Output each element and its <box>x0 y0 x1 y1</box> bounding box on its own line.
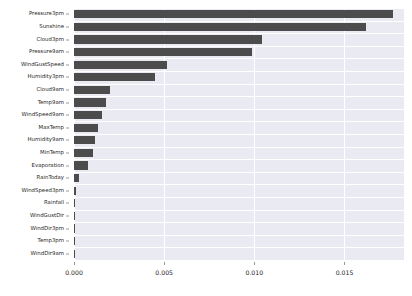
x-axis-label-0.005: 0.005 <box>155 269 173 276</box>
bar-WindSpeed9am <box>74 111 102 119</box>
bar-RainToday <box>74 174 79 182</box>
y-axis-label-MaxTemp: MaxTemp <box>38 125 64 130</box>
y-axis-tick-13 <box>66 178 69 179</box>
gridline-horizontal-20 <box>74 260 404 261</box>
x-axis-label-0.000: 0.000 <box>65 269 83 276</box>
y-axis-label-Cloud9am: Cloud9am <box>37 87 64 92</box>
x-axis-tick-0 <box>74 262 75 265</box>
y-axis-label-Sunshine: Sunshine <box>39 24 64 29</box>
y-axis-label-Cloud3pm: Cloud3pm <box>36 37 64 42</box>
x-axis-label-0.010: 0.010 <box>245 269 263 276</box>
y-axis-label-Pressure3pm: Pressure3pm <box>29 12 64 17</box>
y-axis-tick-16 <box>66 215 69 216</box>
y-axis-tick-2 <box>66 39 69 40</box>
y-axis-label-Pressure9am: Pressure9am <box>29 49 64 54</box>
bar-Pressure9am <box>74 48 252 56</box>
y-axis-label-RainToday: RainToday <box>37 175 64 180</box>
y-axis-tick-10 <box>66 140 69 141</box>
bar-Cloud9am <box>74 86 110 94</box>
bar-MinTemp <box>74 149 93 157</box>
x-axis-tick-1 <box>164 262 165 265</box>
bar-Evaporation <box>74 161 88 169</box>
plot-panel <box>74 8 404 260</box>
bar-WindDir3pm <box>74 224 75 232</box>
bar-Humidity9am <box>74 136 95 144</box>
bar-WindSpeed3pm <box>74 187 76 195</box>
y-axis-label-MinTemp: MinTemp <box>40 150 64 155</box>
y-axis-label-WindSpeed9am: WindSpeed9am <box>22 112 64 117</box>
y-axis-tick-5 <box>66 77 69 78</box>
y-axis-tick-8 <box>66 115 69 116</box>
y-axis-label-WindDir3pm: WindDir3pm <box>30 226 64 231</box>
x-axis-tick-2 <box>254 262 255 265</box>
y-axis-label-WindGustSpeed: WindGustSpeed <box>21 62 64 67</box>
y-axis-label-WindGustDir: WindGustDir <box>30 213 64 218</box>
y-axis-tick-3 <box>66 52 69 53</box>
y-axis-tick-0 <box>66 14 69 15</box>
y-axis-labels: Pressure3pmSunshineCloud3pmPressure9amWi… <box>0 8 70 260</box>
y-axis-tick-7 <box>66 102 69 103</box>
x-axis-label-0.015: 0.015 <box>336 269 354 276</box>
bar-Pressure3pm <box>74 10 393 18</box>
y-axis-label-Temp3pm: Temp3pm <box>38 238 64 243</box>
y-axis-tick-12 <box>66 165 69 166</box>
bar-Temp3pm <box>74 237 75 245</box>
y-axis-tick-9 <box>66 127 69 128</box>
bar-Humidity3pm <box>74 73 155 81</box>
bar-Rainfall <box>74 199 75 207</box>
y-axis-tick-6 <box>66 89 69 90</box>
bar-chart: Pressure3pmSunshineCloud3pmPressure9amWi… <box>0 0 412 296</box>
y-axis-tick-4 <box>66 64 69 65</box>
y-axis-label-WindSpeed3pm: WindSpeed3pm <box>21 188 64 193</box>
y-axis-label-WindDir9am: WindDir9am <box>31 251 64 256</box>
y-axis-tick-15 <box>66 203 69 204</box>
y-axis-label-Evaporation: Evaporation <box>32 163 64 168</box>
bar-Temp9am <box>74 98 106 106</box>
bar-WindGustDir <box>74 212 75 220</box>
y-axis-tick-14 <box>66 190 69 191</box>
y-axis-tick-19 <box>66 253 69 254</box>
x-axis-labels: 0.0000.0050.0100.015 <box>0 262 412 282</box>
y-axis-label-Rainfall: Rainfall <box>44 201 64 206</box>
bar-Cloud3pm <box>74 35 262 43</box>
y-axis-label-Humidity3pm: Humidity3pm <box>27 75 64 80</box>
y-axis-tick-17 <box>66 228 69 229</box>
bar-WindGustSpeed <box>74 61 167 69</box>
bars-layer <box>74 8 404 260</box>
y-axis-tick-1 <box>66 26 69 27</box>
y-axis-tick-11 <box>66 152 69 153</box>
bar-MaxTemp <box>74 124 98 132</box>
y-axis-tick-18 <box>66 241 69 242</box>
y-axis-label-Humidity9am: Humidity9am <box>28 138 64 143</box>
bar-WindDir9am <box>74 250 75 258</box>
x-axis-tick-3 <box>344 262 345 265</box>
bar-Sunshine <box>74 23 366 31</box>
y-axis-label-Temp9am: Temp9am <box>38 100 64 105</box>
